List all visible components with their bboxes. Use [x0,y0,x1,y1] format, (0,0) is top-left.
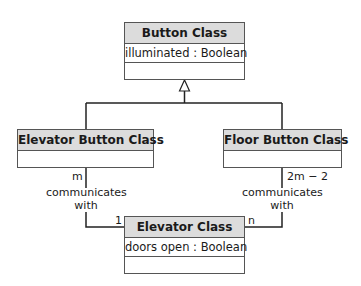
left-association-label-line1: communicates [46,186,126,199]
button-class-attribute: illuminated : Boolean [125,44,244,63]
floor-button-class-body [224,151,341,167]
right-multiplicity-2m-minus-2: 2m − 2 [287,170,328,183]
elevator-class-operations [125,257,244,273]
generalization-arrowhead-icon [180,80,190,91]
left-association-label-line2: with [46,199,126,212]
left-multiplicity-1: 1 [115,214,122,227]
elevator-class-box[interactable]: Elevator Class doors open : Boolean [124,216,245,274]
floor-button-class-name: Floor Button Class [224,130,341,151]
button-class-box[interactable]: Button Class illuminated : Boolean [124,22,245,80]
elevator-button-class-body [18,151,153,167]
right-multiplicity-n: n [248,214,255,227]
elevator-button-class-box[interactable]: Elevator Button Class [17,129,154,168]
elevator-button-class-name: Elevator Button Class [18,130,153,151]
floor-button-class-box[interactable]: Floor Button Class [223,129,342,168]
left-multiplicity-m: m [72,170,83,183]
elevator-class-name: Elevator Class [125,217,244,238]
button-class-operations [125,63,244,79]
button-class-name: Button Class [125,23,244,44]
generalization-connector [86,91,282,129]
right-association-label-line1: communicates [242,186,322,199]
elevator-class-attribute: doors open : Boolean [125,238,244,257]
right-association-label-line2: with [242,199,322,212]
